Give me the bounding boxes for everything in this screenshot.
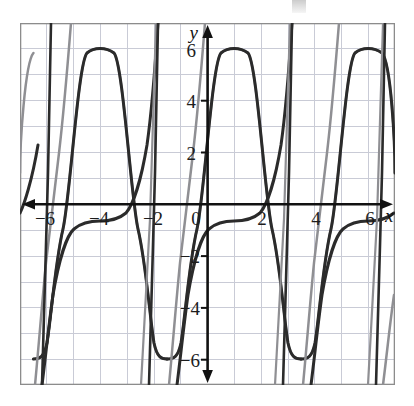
x-tick-label-4: 4 xyxy=(311,208,321,229)
x-tick-label--4: −4 xyxy=(89,208,110,229)
y-tick-label-2: 2 xyxy=(187,143,197,164)
y-axis-name: y xyxy=(188,23,199,43)
y-tick-label-4: 4 xyxy=(187,91,197,112)
x-tick-label-6: 6 xyxy=(365,208,375,229)
y-tick-label-6: 6 xyxy=(187,40,197,61)
graph-svg: −6 −4 −2 0 2 4 6 6 4 2 −2 −4 −6 y x xyxy=(20,23,395,385)
y-tick-label--2: −2 xyxy=(180,246,200,267)
x-axis-name: x xyxy=(384,205,394,226)
x-tick-label--6: −6 xyxy=(35,208,55,229)
figure-container: −6 −4 −2 0 2 4 6 6 4 2 −2 −4 −6 y x xyxy=(0,0,414,406)
x-tick-label--2: −2 xyxy=(143,208,163,229)
y-tick-label--4: −4 xyxy=(180,298,201,319)
y-tick-label--6: −6 xyxy=(180,350,200,371)
x-tick-label-2: 2 xyxy=(257,208,267,229)
x-tick-label-0: 0 xyxy=(191,208,201,229)
plot-area: −6 −4 −2 0 2 4 6 6 4 2 −2 −4 −6 y x xyxy=(20,23,395,385)
scan-artifact xyxy=(292,0,306,13)
